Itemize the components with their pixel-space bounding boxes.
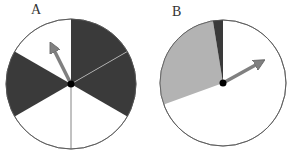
spinner-a <box>6 19 136 149</box>
spinner-b-pivot <box>220 80 227 87</box>
spinner-a-pivot <box>68 81 75 88</box>
spinner-b <box>160 20 286 146</box>
spinners-diagram <box>0 0 291 160</box>
